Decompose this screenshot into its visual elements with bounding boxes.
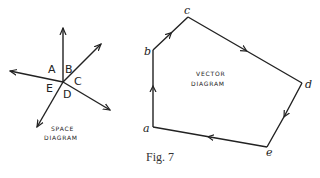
vector-diagram-title-line1: VECTOR [196, 70, 225, 77]
vector-diagram: a b c d e VECTOR DIAGRAM [143, 4, 312, 159]
space-diagram-title-line2: DIAGRAM [44, 134, 78, 141]
vector-bc [153, 17, 188, 50]
figure-caption: Fig. 7 [0, 150, 320, 165]
space-diagram-title-line1: SPACE [51, 125, 74, 132]
vector-ea [153, 127, 267, 147]
region-label-a: A [48, 63, 56, 76]
region-label-e: E [46, 82, 53, 95]
region-label-b: B [65, 63, 73, 76]
region-label-d: D [63, 88, 71, 101]
region-label-c: C [74, 75, 82, 88]
vertex-label-b: b [144, 45, 151, 58]
vertex-label-a: a [143, 122, 150, 135]
vertex-label-c: c [184, 4, 190, 17]
vertex-label-d: d [305, 78, 312, 91]
space-diagram: A B C D E SPACE DIAGRAM [10, 28, 110, 141]
vector-diagram-title-line2: DIAGRAM [191, 80, 225, 87]
vector-de [267, 83, 302, 147]
